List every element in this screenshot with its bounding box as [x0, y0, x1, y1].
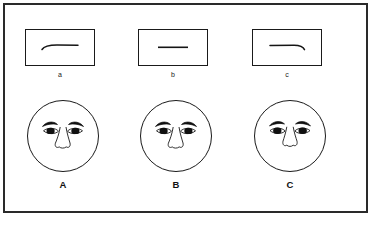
face-label-C: C — [252, 179, 328, 190]
figure-frame-border: a b c — [3, 3, 368, 213]
face-cell-A[interactable]: A — [25, 97, 100, 201]
face-cell-C[interactable]: C — [252, 97, 327, 201]
face-label-A: A — [25, 179, 101, 190]
figure-root: a b c — [0, 0, 375, 228]
face-C-icon — [252, 97, 328, 175]
faces-row: A B — [5, 5, 366, 211]
face-cell-B[interactable]: B — [138, 97, 213, 201]
face-B-icon — [138, 97, 214, 175]
face-A-icon — [25, 97, 101, 175]
face-label-B: B — [138, 179, 214, 190]
